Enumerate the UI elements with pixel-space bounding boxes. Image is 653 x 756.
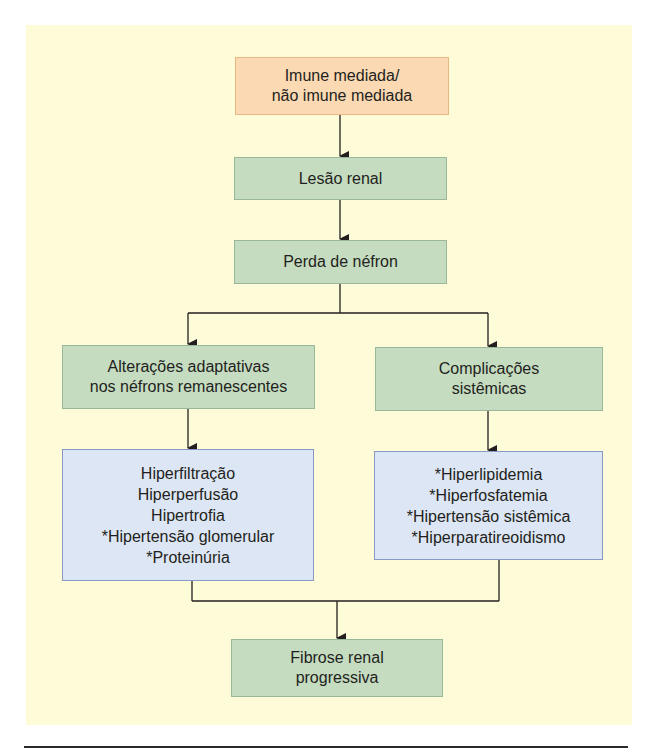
node-text: não imune mediada	[272, 86, 413, 106]
node-systemic-list: *Hiperlipidemia *Hiperfosfatemia *Hipert…	[374, 451, 603, 560]
list-item: *Hiperlipidemia	[435, 464, 543, 485]
node-nephron-loss: Perda de néfron	[234, 240, 447, 284]
node-text: Alterações adaptativas	[108, 357, 270, 377]
node-outcome: Fibrose renal progressiva	[231, 639, 443, 697]
node-adaptive-changes: Alterações adaptativas nos néfrons reman…	[62, 345, 315, 409]
node-adaptive-list: Hiperfiltração Hiperperfusão Hipertrofia…	[62, 449, 314, 581]
node-cause: Imune mediada/ não imune mediada	[235, 57, 449, 115]
list-item: Hiperperfusão	[138, 484, 239, 505]
bottom-rule	[24, 746, 628, 748]
node-text: sistêmicas	[452, 379, 527, 399]
node-text: Perda de néfron	[283, 252, 398, 272]
node-text: nos néfrons remanescentes	[90, 377, 287, 397]
node-text: Lesão renal	[299, 169, 383, 189]
list-item: *Hiperfosfatemia	[429, 485, 547, 506]
node-text: Complicações	[439, 359, 539, 379]
node-systemic-complications: Complicações sistêmicas	[375, 347, 603, 411]
list-item: *Hipertensão sistêmica	[407, 506, 571, 527]
list-item: *Hiperparatireoidismo	[412, 527, 566, 548]
node-renal-injury: Lesão renal	[234, 157, 447, 200]
list-item: Hiperfiltração	[141, 463, 235, 484]
node-text: progressiva	[296, 668, 379, 688]
node-text: Imune mediada/	[285, 66, 400, 86]
node-text: Fibrose renal	[290, 648, 383, 668]
list-item: *Hipertensão glomerular	[102, 526, 275, 547]
list-item: *Proteinúria	[146, 547, 230, 568]
list-item: Hipertrofia	[151, 505, 225, 526]
